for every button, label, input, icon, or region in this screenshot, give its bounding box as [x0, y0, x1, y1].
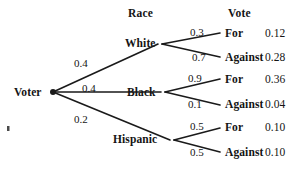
- vote-column-header: Vote: [228, 8, 251, 20]
- branch-prob-hispanic: 0.2: [74, 114, 88, 125]
- joint-prob-hispanic-for: 0.10: [265, 122, 285, 134]
- outcome-label-white-for: For: [225, 28, 243, 40]
- branch-white-to-against: [162, 44, 220, 57]
- joint-prob-hispanic-against: 0.10: [265, 147, 285, 159]
- branch-prob-white: 0.4: [74, 58, 88, 69]
- node-label-hispanic: Hispanic: [113, 134, 157, 146]
- joint-prob-white-for: 0.12: [265, 28, 285, 40]
- outcome-label-black-for: For: [225, 74, 243, 86]
- branch-prob-hispanic-for: 0.5: [190, 121, 204, 132]
- outcome-label-white-against: Against: [225, 52, 263, 64]
- branch-prob-black-against: 0.1: [188, 99, 202, 110]
- branch-prob-black: 0.4: [82, 83, 96, 94]
- scan-speck: [7, 126, 10, 131]
- probability-tree-diagram: Race Vote Voter White Black Hispanic 0.4…: [0, 0, 303, 172]
- node-label-white: White: [125, 38, 156, 50]
- joint-prob-black-for: 0.36: [265, 74, 285, 86]
- race-column-header: Race: [128, 8, 153, 20]
- branch-prob-black-for: 0.9: [188, 73, 202, 84]
- root-node-label: Voter: [14, 87, 42, 99]
- root-node-dot: [50, 89, 56, 95]
- root-node-marker: [50, 89, 56, 95]
- branch-root-to-white: [53, 44, 158, 92]
- scan-artifact-speck: [7, 126, 10, 131]
- outcome-label-hispanic-against: Against: [225, 147, 263, 159]
- joint-prob-white-against: 0.28: [265, 52, 285, 64]
- outcome-label-black-against: Against: [225, 99, 263, 111]
- outcome-label-hispanic-for: For: [225, 122, 243, 134]
- node-label-black: Black: [127, 87, 156, 99]
- joint-prob-black-against: 0.04: [265, 99, 285, 111]
- branch-prob-hispanic-against: 0.5: [190, 147, 204, 158]
- branch-prob-white-against: 0.7: [192, 52, 206, 63]
- branch-prob-white-for: 0.3: [190, 27, 204, 38]
